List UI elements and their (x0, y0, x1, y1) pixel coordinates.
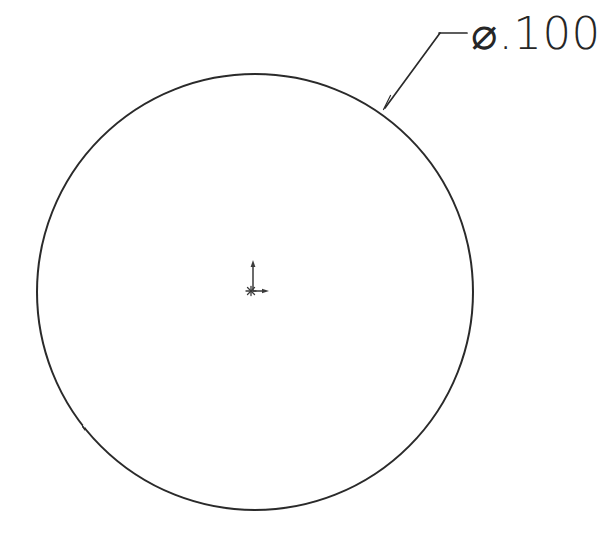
drawing-vector-layer (0, 0, 602, 539)
origin-marker (246, 260, 269, 296)
technical-drawing-canvas: ⌀.100 (0, 0, 602, 539)
diameter-symbol-icon: ⌀ (471, 8, 499, 59)
origin-x-axis-arrow-icon (262, 289, 269, 293)
origin-y-axis-arrow-icon (251, 260, 256, 267)
diameter-dimension-label: ⌀.100 (471, 8, 601, 60)
outer-circle (37, 74, 473, 510)
leader-angled-segment (385, 33, 440, 108)
origin-star-icon (246, 287, 256, 296)
dimension-leader-group (384, 33, 468, 110)
diameter-value-text: .100 (499, 7, 601, 60)
